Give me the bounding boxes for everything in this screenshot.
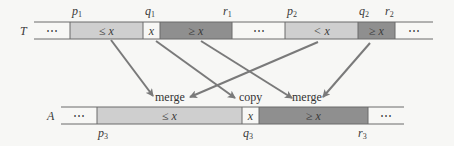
array-A-cell-label: ≤ x: [162, 109, 178, 123]
array-A-cells: ⋯≤ xx≥ x⋯: [61, 107, 404, 124]
array-T-index-q1: q1: [145, 4, 155, 19]
array-T-cells: ⋯≤ xx≥ x⋯< x≥ x⋯: [34, 22, 433, 39]
array-T-indices: p1q1r1p2q2r2: [71, 4, 394, 19]
array-A-label: A: [46, 109, 55, 123]
array-T-cell-label: ≥ x: [189, 24, 205, 38]
array-A-cell-label: ⋯: [73, 109, 85, 123]
array-T-index-r1: r1: [223, 4, 232, 19]
array-T-index-q2: q2: [359, 4, 369, 19]
array-T-index-r2: r2: [385, 4, 394, 19]
operation-label-merge: merge: [292, 90, 322, 104]
array-T-cell-label: ⋯: [46, 24, 58, 38]
array-T: T ⋯≤ xx≥ x⋯< x≥ x⋯ p1q1r1p2q2r2: [20, 4, 433, 39]
array-A-cell-label: x: [247, 109, 254, 123]
array-T-label: T: [20, 24, 28, 38]
array-T-cell-label: x: [148, 24, 155, 38]
merge-diagram: T ⋯≤ xx≥ x⋯< x≥ x⋯ p1q1r1p2q2r2 mergecop…: [0, 0, 454, 146]
array-A-cell-label: ⋯: [380, 109, 392, 123]
array-A-indices: p3q3r3: [97, 126, 367, 141]
array-T-index-p1: p1: [71, 4, 82, 19]
array-A-index-p3: p3: [97, 126, 108, 141]
arrow-icon: [111, 40, 153, 96]
array-T-cell-label: < x: [313, 24, 330, 38]
operation-label-merge: merge: [155, 90, 185, 104]
array-T-index-p2: p2: [286, 4, 297, 19]
array-T-cell-label: ⋯: [408, 24, 420, 38]
array-T-cell-label: ≥ x: [369, 24, 385, 38]
arrow-icon: [323, 43, 370, 97]
array-A-index-q3: q3: [243, 126, 253, 141]
array-A: A ⋯≤ xx≥ x⋯ p3q3r3: [46, 107, 404, 141]
operation-labels: mergecopymerge: [155, 90, 322, 104]
operation-label-copy: copy: [239, 90, 262, 104]
arrow-icon: [190, 42, 318, 97]
array-T-cell-label: ≤ x: [99, 24, 115, 38]
array-T-cell-label: ⋯: [253, 24, 265, 38]
array-A-cell-label: ≥ x: [306, 109, 322, 123]
array-A-index-r3: r3: [358, 126, 367, 141]
